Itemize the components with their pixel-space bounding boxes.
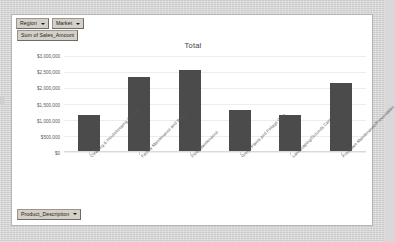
page-filter-market[interactable]: Market	[52, 18, 84, 29]
chart-title: Total	[12, 41, 374, 50]
row-field-label: Product_Description	[21, 212, 69, 217]
row-field-button[interactable]: Product_Description	[17, 209, 81, 220]
y-axis-tick-label: $1,500,000	[37, 102, 60, 107]
page-filter-region-label: Region	[20, 21, 37, 26]
y-axis-tick-label: $0	[55, 151, 60, 156]
y-axis-tick-label: $500,000	[41, 134, 60, 139]
page-filter-market-label: Market	[56, 21, 72, 26]
y-axis-tick-label: $2,500,000	[37, 70, 60, 75]
chevron-down-icon[interactable]	[41, 23, 45, 25]
gridline: $0	[64, 152, 366, 153]
y-axis-tick-label: $2,000,000	[37, 86, 60, 91]
x-axis-labels: Cleaning & Housekeeping ServicesFacility…	[64, 155, 366, 201]
x-axis-line	[64, 151, 366, 152]
page-filter-group: Region Market	[16, 18, 84, 29]
data-field-button[interactable]: Sum of Sales_Amount	[17, 30, 78, 41]
pivot-chart-panel: Region Market Sum of Sales_Amount Total …	[11, 14, 373, 226]
page-filter-region[interactable]: Region	[16, 18, 49, 29]
data-field-label: Sum of Sales_Amount	[21, 33, 74, 38]
chevron-down-icon[interactable]	[76, 23, 80, 25]
window-edge-marker	[0, 96, 4, 105]
y-axis-tick-label: $3,000,000	[37, 54, 60, 59]
y-axis-tick-label: $1,000,000	[37, 118, 60, 123]
bar-chart: Total $3,000,000$2,500,000$2,000,000$1,5…	[12, 41, 374, 201]
bar[interactable]	[330, 83, 352, 152]
chevron-down-icon[interactable]	[73, 213, 77, 215]
